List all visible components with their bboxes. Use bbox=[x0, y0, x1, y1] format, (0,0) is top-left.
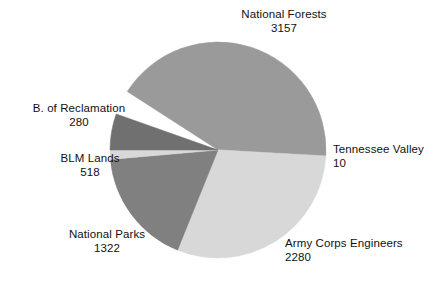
slice-label-army-corps-engineers: Army Corps Engineers 2280 bbox=[285, 237, 445, 264]
slice-label-name: National Parks bbox=[42, 228, 172, 242]
slice-label-value: 10 bbox=[333, 157, 445, 171]
slice-label-name: National Forests bbox=[204, 8, 364, 22]
slice-label-national-forests: National Forests 3157 bbox=[204, 8, 364, 35]
slice-label-national-parks: National Parks 1322 bbox=[42, 228, 172, 255]
slice-label-tennessee-valley: Tennessee Valley 10 bbox=[333, 143, 445, 170]
slice-label-value: 1322 bbox=[42, 242, 172, 256]
slice-label-bureau-of-reclamation: B. of Reclamation 280 bbox=[4, 102, 154, 129]
slice-label-name: BLM Lands bbox=[30, 152, 150, 166]
slice-label-value: 2280 bbox=[285, 251, 445, 265]
slice-label-name: Army Corps Engineers bbox=[285, 237, 445, 251]
slice-label-value: 518 bbox=[30, 166, 150, 180]
slice-label-blm-lands: BLM Lands 518 bbox=[30, 152, 150, 179]
slice-label-name: B. of Reclamation bbox=[4, 102, 154, 116]
pie-chart: National Forests 3157 Tennessee Valley 1… bbox=[0, 0, 446, 285]
slice-label-value: 3157 bbox=[204, 22, 364, 36]
slice-label-value: 280 bbox=[4, 116, 154, 130]
slice-label-name: Tennessee Valley bbox=[333, 143, 445, 157]
pie-slice-group bbox=[110, 42, 326, 258]
